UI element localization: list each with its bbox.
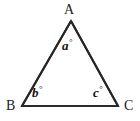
vertex-label-a: A [64,3,74,17]
vertex-label-b: B [6,99,15,113]
triangle-diagram: A B C a° b° c° [0,0,140,121]
angle-label-c: c° [93,85,103,99]
degree-symbol-b: ° [39,84,43,94]
angle-variable-b: b [32,85,39,100]
degree-symbol-c: ° [99,84,103,94]
vertex-label-c: C [124,99,133,113]
triangle-outline [0,0,140,121]
angle-label-a: a° [62,38,73,52]
angle-label-b: b° [32,85,43,99]
angle-variable-c: c [93,85,99,100]
angle-variable-a: a [62,38,69,53]
degree-symbol-a: ° [69,37,73,47]
